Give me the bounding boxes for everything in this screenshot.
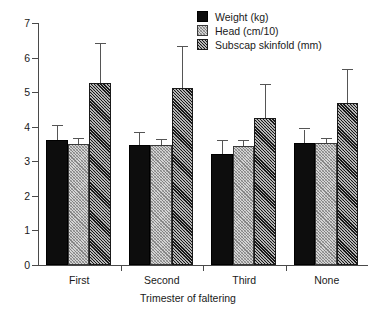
error-bar-stem bbox=[100, 44, 101, 83]
y-axis-tick-label: 1 bbox=[0, 225, 30, 235]
x-axis-label-second: Second bbox=[144, 274, 180, 286]
error-bar-cap bbox=[52, 125, 63, 126]
error-bar-cap bbox=[177, 46, 188, 47]
y-axis-tick bbox=[32, 265, 38, 266]
y-axis-tick-label: 7 bbox=[0, 18, 30, 28]
error-bar-cap bbox=[238, 140, 249, 141]
legend-swatch-icon-weight bbox=[197, 11, 208, 22]
error-bar-cap bbox=[321, 138, 332, 139]
error-bar-cap bbox=[156, 139, 167, 140]
error-bar-stem bbox=[182, 47, 183, 88]
error-bar-stem bbox=[57, 126, 58, 140]
error-bar-cap bbox=[260, 84, 271, 85]
bar-chart: Weight (kg) Head (cm/10) Subscap skinfol… bbox=[0, 0, 376, 315]
y-axis-tick-label: 6 bbox=[0, 53, 30, 63]
x-axis-label-none: None bbox=[314, 274, 339, 286]
error-bar-stem bbox=[326, 139, 327, 143]
y-axis-tick-label: 2 bbox=[0, 191, 30, 201]
error-bar-stem bbox=[139, 133, 140, 145]
bar-third-series0 bbox=[211, 154, 233, 265]
bar-first-series2 bbox=[89, 83, 111, 265]
error-bar-stem bbox=[161, 140, 162, 145]
y-axis-tick-label: 5 bbox=[0, 87, 30, 97]
bar-none-series2 bbox=[337, 103, 359, 265]
bar-second-series1 bbox=[150, 145, 172, 265]
legend-item-weight: Weight (kg) bbox=[197, 10, 322, 23]
bar-none-series0 bbox=[294, 143, 316, 265]
error-bar-cap bbox=[134, 132, 145, 133]
error-bar-stem bbox=[222, 141, 223, 154]
error-bar-stem bbox=[265, 85, 266, 117]
bar-third-series1 bbox=[233, 146, 255, 265]
bar-first-series0 bbox=[46, 140, 68, 265]
x-axis-tick bbox=[286, 266, 287, 271]
error-bar-cap bbox=[217, 140, 228, 141]
error-bar-stem bbox=[304, 130, 305, 143]
error-bar-cap bbox=[95, 43, 106, 44]
bar-none-series1 bbox=[315, 143, 337, 265]
y-axis-tick-label: 0 bbox=[0, 260, 30, 270]
plot-area bbox=[38, 23, 368, 265]
bar-first-series1 bbox=[68, 144, 90, 265]
x-axis-tick bbox=[121, 266, 122, 271]
error-bar-stem bbox=[347, 70, 348, 104]
error-bar-stem bbox=[243, 141, 244, 145]
bar-second-series0 bbox=[129, 145, 151, 265]
legend-label-weight: Weight (kg) bbox=[215, 11, 269, 23]
y-axis-tick-label: 3 bbox=[0, 156, 30, 166]
error-bar-cap bbox=[73, 138, 84, 139]
x-axis-label-third: Third bbox=[232, 274, 256, 286]
x-axis-label-first: First bbox=[69, 274, 89, 286]
bar-third-series2 bbox=[254, 118, 276, 265]
error-bar-stem bbox=[78, 139, 79, 144]
y-axis-tick-label: 4 bbox=[0, 122, 30, 132]
error-bar-cap bbox=[342, 69, 353, 70]
x-axis-tick bbox=[203, 266, 204, 271]
x-axis-title: Trimester of faltering bbox=[0, 292, 376, 304]
bar-second-series2 bbox=[172, 88, 194, 265]
error-bar-cap bbox=[299, 128, 310, 129]
